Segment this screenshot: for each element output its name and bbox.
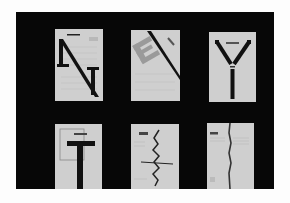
poster-zigzag [131,124,179,189]
letter-t-graphic [55,124,102,189]
zigzag-graphic [131,124,179,189]
black-board [16,12,274,189]
poster-vertical-line [207,123,254,189]
poster-letter-y [209,32,256,102]
letter-n-graphic [55,29,103,101]
letter-e-graphic [131,30,180,101]
vertical-line-graphic [207,123,254,189]
poster-letter-e [131,30,180,101]
poster-letter-t [55,124,102,189]
letter-y-graphic [209,32,256,102]
poster-letter-n [55,29,103,101]
